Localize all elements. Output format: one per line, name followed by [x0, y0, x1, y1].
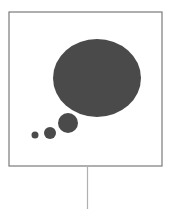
small-bubble: [44, 127, 56, 139]
thought-bubble-diagram: [0, 0, 175, 209]
tiny-bubble: [32, 132, 39, 139]
large-bubble: [53, 39, 141, 117]
bubble-group: [32, 39, 142, 139]
medium-bubble: [58, 113, 78, 133]
